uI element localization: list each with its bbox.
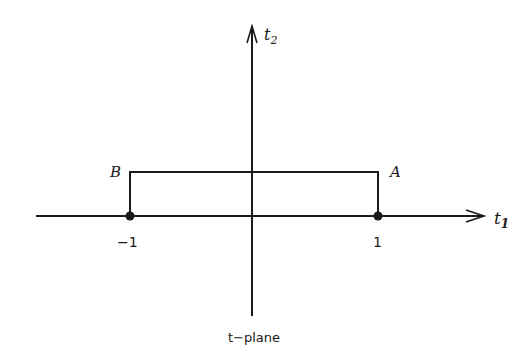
path-b-to-a [130, 172, 378, 216]
tick-label-minus-one: −1 [117, 234, 138, 250]
point-one-dot [374, 212, 383, 221]
point-minus-one-dot [126, 212, 135, 221]
label-a: A [388, 163, 401, 181]
t2-axis-label: t2 [264, 25, 277, 47]
caption-t-plane: t−plane [228, 330, 280, 345]
t-plane-diagram: B A −1 1 t1 t2 t−plane [0, 0, 530, 364]
t1-axis-label: t1 [494, 208, 509, 231]
tick-label-one: 1 [373, 234, 382, 250]
label-b: B [109, 163, 121, 181]
